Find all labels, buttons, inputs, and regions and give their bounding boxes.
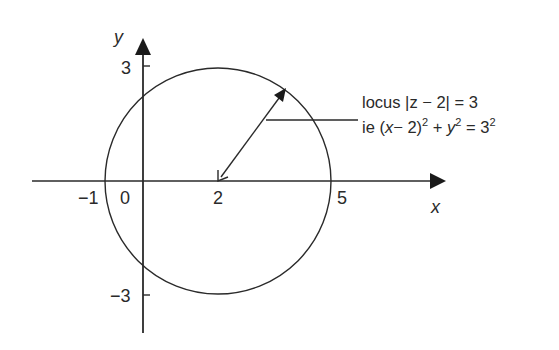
eq-x: x (385, 118, 393, 136)
locus-diagram: y x 3 −3 −1 0 2 5 locus |z − 2| = 3 ie (… (0, 0, 559, 350)
eq-sup3: 2 (489, 116, 495, 128)
x-tick-label-0: 0 (120, 189, 130, 207)
y-axis-arrowhead-icon (135, 38, 151, 55)
locus-annotation-line2: ie (x− 2)2 + y2 = 32 (362, 118, 496, 136)
y-tick-label-neg3: −3 (110, 287, 131, 305)
radius-arrowhead-outer-icon (274, 88, 286, 102)
x-tick-label-5: 5 (337, 189, 347, 207)
y-tick-label-3: 3 (121, 59, 131, 77)
radius-line (221, 94, 282, 177)
eq-prefix: ie ( (362, 118, 385, 136)
x-tick-label-neg1: −1 (78, 189, 99, 207)
eq-equals: = 3 (461, 118, 489, 136)
locus-annotation-line1: locus |z − 2| = 3 (362, 93, 478, 111)
eq-mid: − 2) (393, 118, 422, 136)
radius-arrowhead-inner-icon (218, 170, 228, 181)
x-axis-arrowhead-icon (430, 173, 446, 189)
y-axis-label: y (114, 28, 123, 46)
eq-plus: + (428, 118, 447, 136)
diagram-canvas (0, 0, 559, 350)
x-tick-label-2: 2 (213, 189, 223, 207)
x-axis-label: x (431, 198, 440, 216)
